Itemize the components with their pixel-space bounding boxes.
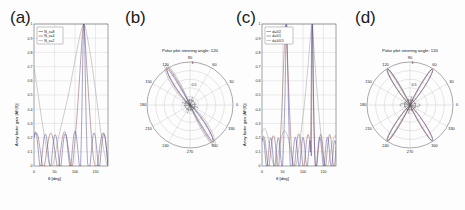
angle-label: 30 [449, 79, 454, 84]
y-tick: 0.4 [256, 108, 261, 112]
y-tick: 0.7 [256, 65, 261, 69]
angle-label: 240 [162, 143, 169, 148]
panel-a-plot: 1 0.9 0.8 0.7 0.6 0.5 0.4 0.3 0.2 0.1 0 … [8, 18, 116, 198]
legend-entry-d-one: d=λ/1 [272, 34, 281, 38]
angle-label: 0 [456, 102, 459, 107]
y-tick: 0.2 [28, 136, 33, 140]
panel-c-xlabel: θ [deg] [276, 176, 289, 181]
legend-entry-nx2: N_x=2 [44, 39, 54, 43]
y-tick: 0.4 [28, 108, 33, 112]
angle-label: 90 [188, 55, 193, 60]
y-tick: 0.1 [28, 150, 33, 154]
panel-c-ylabel: Array factor gain |AF(θ)| [242, 103, 247, 146]
panel-a-xlabel: θ [deg] [48, 176, 61, 181]
y-tick: 0.8 [28, 51, 33, 55]
panel-d-plot: Polar plot steering angle: 120 [360, 45, 460, 160]
y-tick: 0.9 [256, 37, 261, 41]
radial-tick-1: 1 [192, 61, 194, 65]
panel-b-title: Polar plot steering angle: 120 [162, 48, 219, 53]
y-tick: 1 [31, 22, 33, 26]
x-tick: 100 [72, 170, 78, 174]
y-tick: 0 [31, 164, 33, 168]
angle-label: 210 [365, 126, 372, 131]
y-tick: 0.9 [28, 37, 33, 41]
x-tick: 150 [93, 170, 99, 174]
angle-label: 120 [162, 62, 169, 67]
panel-a-ylabel: Array factor gain |AF(θ)| [14, 103, 19, 146]
panel-c: 1 0.9 0.8 0.7 0.6 0.5 0.4 0.3 0.2 0.1 0 … [236, 18, 344, 198]
y-tick: 0.3 [28, 122, 33, 126]
radial-tick-0-5: 0.5 [412, 83, 417, 87]
angle-label: 300 [431, 143, 438, 148]
angle-label: 180 [360, 102, 367, 107]
y-tick: 0.2 [256, 136, 261, 140]
angle-label: 150 [145, 79, 152, 84]
radial-tick-0-5: 0.5 [192, 83, 197, 87]
panel-b: Polar plot steering angle: 120 [140, 45, 240, 160]
y-tick: 0.1 [256, 150, 261, 154]
angle-label: 60 [212, 62, 217, 67]
y-tick: 0.5 [256, 93, 261, 97]
y-tick: 0.6 [28, 79, 33, 83]
panel-d-title: Polar plot steering angle: 120 [382, 48, 439, 53]
angle-label: 150 [365, 79, 372, 84]
y-tick: 0.7 [28, 65, 33, 69]
panel-a: 1 0.9 0.8 0.7 0.6 0.5 0.4 0.3 0.2 0.1 0 … [8, 18, 116, 198]
legend-entry-d-half: d=λ/2 [272, 30, 281, 34]
legend-entry-nx8: N_x=8 [44, 30, 54, 34]
y-tick: 1 [259, 22, 261, 26]
angle-label: 120 [382, 62, 389, 67]
x-tick: 50 [53, 170, 57, 174]
angle-label: 270 [187, 149, 194, 154]
angle-label: 210 [145, 126, 152, 131]
angle-label: 240 [382, 143, 389, 148]
y-tick: 0 [259, 164, 261, 168]
y-tick: 0.8 [256, 51, 261, 55]
x-tick: 50 [281, 170, 285, 174]
angle-label: 180 [140, 102, 147, 107]
angle-label: 300 [211, 143, 218, 148]
angle-label: 330 [228, 126, 235, 131]
radial-tick-1: 1 [412, 61, 414, 65]
panel-a-legend: N_x=8 N_x=4 N_x=2 [37, 27, 63, 44]
legend-entry-nx4: N_x=4 [44, 34, 54, 38]
y-tick: 0.3 [256, 122, 261, 126]
panel-label-b: (b) [125, 8, 146, 28]
x-tick: 150 [321, 170, 327, 174]
figure-canvas: (a) [0, 0, 465, 210]
panel-d: Polar plot steering angle: 120 [360, 45, 460, 160]
legend-entry-d-double: d=λ/0.5 [272, 39, 284, 43]
panel-c-legend: d=λ/2 d=λ/1 d=λ/0.5 [265, 27, 293, 44]
y-tick: 0.5 [28, 93, 33, 97]
x-tick: 0 [261, 170, 263, 174]
x-tick: 100 [300, 170, 306, 174]
panel-label-d: (d) [355, 8, 376, 28]
panel-c-plot: 1 0.9 0.8 0.7 0.6 0.5 0.4 0.3 0.2 0.1 0 … [236, 18, 344, 198]
x-tick: 0 [33, 170, 35, 174]
angle-label: 270 [407, 149, 414, 154]
angle-label: 330 [448, 126, 455, 131]
angle-label: 90 [408, 55, 413, 60]
angle-label: 30 [229, 79, 234, 84]
angle-label: 60 [432, 62, 437, 67]
panel-b-plot: Polar plot steering angle: 120 [140, 45, 240, 160]
y-tick: 0.6 [256, 79, 261, 83]
